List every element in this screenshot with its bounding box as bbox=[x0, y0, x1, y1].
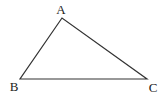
triangle-diagram: A B C bbox=[0, 0, 168, 98]
vertex-label-b: B bbox=[10, 79, 19, 94]
vertex-label-a: A bbox=[56, 2, 66, 17]
vertex-label-c: C bbox=[149, 80, 158, 95]
triangle-abc bbox=[20, 18, 147, 79]
